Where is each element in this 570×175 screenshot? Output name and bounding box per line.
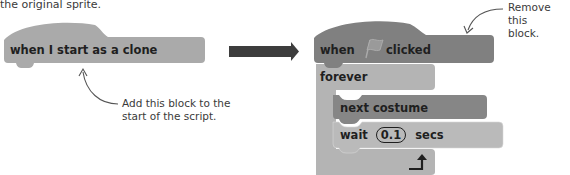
- next-costume-block[interactable]: next costume: [340, 101, 428, 115]
- clone-hat-block[interactable]: when I start as a clone: [10, 43, 157, 57]
- when-label: when: [320, 43, 355, 57]
- wait-seconds-input[interactable]: 0.1: [376, 127, 406, 143]
- forever-block[interactable]: forever: [320, 70, 367, 84]
- wait-block[interactable]: wait 0.1 secs: [340, 127, 444, 143]
- add-block-callout-line1: Add this block to the: [122, 97, 230, 110]
- wait-label: wait: [340, 128, 368, 142]
- remove-block-callout-line1: Remove this: [508, 1, 570, 27]
- right-arrow-icon: [229, 42, 299, 61]
- clicked-label: clicked: [386, 43, 431, 57]
- remove-block-callout-line2: block.: [508, 27, 570, 40]
- add-block-callout: Add this block to the start of the scrip…: [122, 97, 230, 123]
- diagram-graphics: [0, 0, 570, 175]
- remove-block-callout: Remove this block.: [508, 1, 570, 40]
- add-block-callout-line2: start of the script.: [122, 110, 230, 123]
- secs-label: secs: [415, 128, 443, 142]
